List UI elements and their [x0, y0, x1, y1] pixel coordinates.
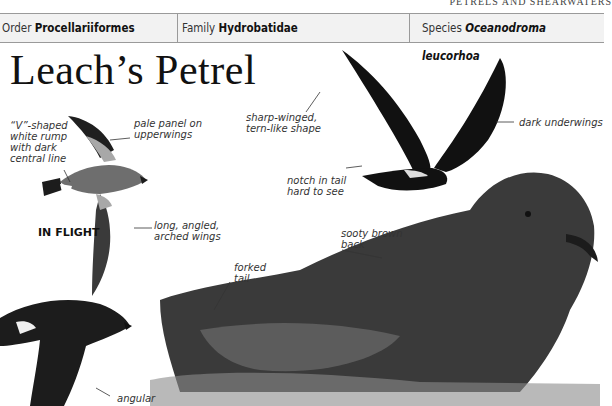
annotation-sooty-back: sooty brown back: [341, 228, 403, 250]
in-flight-caption: IN FLIGHT: [38, 226, 99, 239]
annotation-long-wings: long, angled, arched wings: [154, 220, 221, 242]
annotation-v-rump: “V”-shaped white rump with dark central …: [10, 120, 68, 164]
annotation-sharp-winged: sharp-winged, tern-like shape: [246, 112, 321, 134]
angular-wing-illustration: [0, 300, 132, 406]
annotation-dark-underwings: dark underwings: [519, 117, 603, 128]
annotation-forked-tail: forked tail: [234, 262, 266, 284]
silhouette-flight-illustration: [342, 50, 506, 190]
annotation-notch-tail: notch in tail hard to see: [287, 175, 346, 197]
sitting-bird-photo: [150, 173, 600, 406]
annotation-pale-panel: pale panel on upperwings: [134, 118, 202, 140]
annotation-angular: angular: [117, 393, 155, 404]
